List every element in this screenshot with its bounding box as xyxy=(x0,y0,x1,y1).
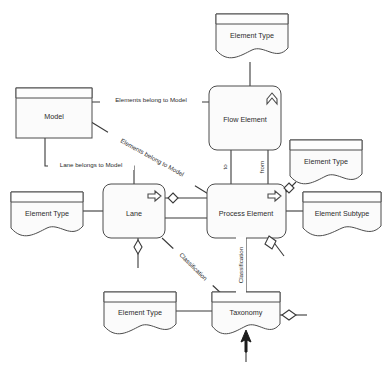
process-model-diagram: Element Type Model Flow Element Element … xyxy=(0,0,390,370)
edge-label-text: from xyxy=(258,161,265,173)
node-element-subtype[interactable]: Element Subtype xyxy=(303,192,381,236)
node-taxonomy[interactable]: Taxonomy xyxy=(212,292,280,334)
node-element-type-bottom[interactable]: Element Type xyxy=(104,292,176,334)
node-label: Process Element xyxy=(219,209,273,218)
node-label: Element Type xyxy=(304,157,348,166)
node-model[interactable]: Model xyxy=(16,88,92,138)
note-header-bar xyxy=(212,292,280,302)
edge-label-text: Classification xyxy=(178,251,209,282)
node-label: Element Type xyxy=(230,31,274,40)
note-header-bar xyxy=(11,192,83,202)
node-process-element[interactable]: Process Element xyxy=(207,184,286,238)
edge-label-text: to xyxy=(221,164,228,170)
edge-label-flow-process-from: from xyxy=(257,154,267,180)
node-element-type-left[interactable]: Element Type xyxy=(11,192,83,236)
node-header-bar xyxy=(16,88,92,98)
note-header-bar xyxy=(216,14,288,24)
node-element-type-right[interactable]: Element Type xyxy=(290,140,362,184)
edge-label-text: Classification xyxy=(237,246,244,283)
edge-label-model-process: Elements belong to Model xyxy=(105,128,200,187)
node-flow-element[interactable]: Flow Element xyxy=(209,86,281,150)
note-header-bar xyxy=(290,140,362,150)
node-label: Model xyxy=(44,112,64,121)
edge-label-text: Lane belongs to Model xyxy=(60,161,123,168)
hollow-diamond-lane-bottom xyxy=(134,240,142,254)
node-label: Lane xyxy=(126,209,142,218)
node-label: Taxonomy xyxy=(230,308,263,317)
diagram-canvas: Element Type Model Flow Element Element … xyxy=(0,0,390,370)
node-label: Element Type xyxy=(25,209,69,218)
note-header-bar xyxy=(104,292,176,302)
node-label: Element Type xyxy=(118,308,162,317)
edge-label-model-flow: Elements belong to Model xyxy=(100,94,202,105)
edge-label-flow-process-to: to xyxy=(220,158,230,176)
edge-label-model-lane: Lane belongs to Model xyxy=(48,159,134,170)
edge-label-process-taxonomy: Classification xyxy=(236,237,246,293)
hollow-diamond-taxonomy-right xyxy=(282,310,296,320)
edge-label-text: Elements belong to Model xyxy=(115,96,187,103)
hollow-diamond-lane-process xyxy=(168,193,178,203)
edge-label-text: Elements belong to Model xyxy=(119,137,185,178)
node-label: Element Subtype xyxy=(315,209,370,218)
node-element-type-top[interactable]: Element Type xyxy=(216,14,288,58)
node-label: Flow Element xyxy=(223,115,267,124)
solid-arrow-taxonomy-bottom xyxy=(241,330,251,352)
node-lane[interactable]: Lane xyxy=(103,184,165,238)
edge-label-lane-taxonomy: Classification xyxy=(170,244,216,290)
note-header-bar xyxy=(303,192,381,202)
